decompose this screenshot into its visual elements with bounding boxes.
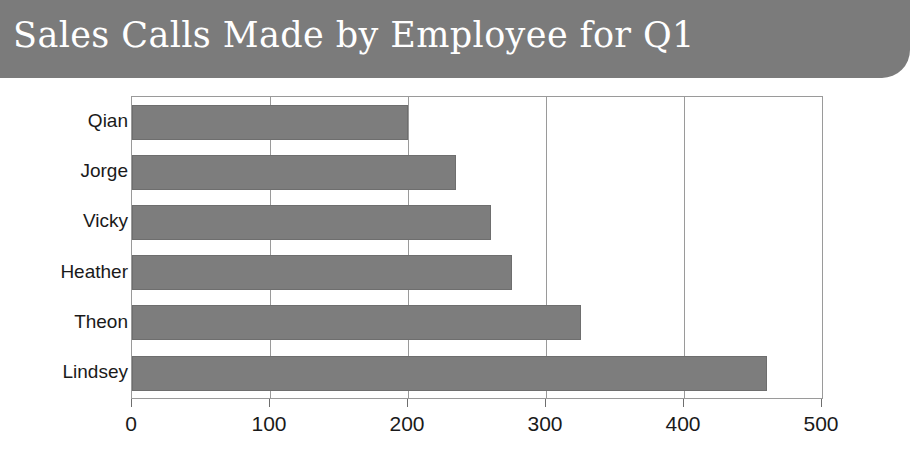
y-axis-label-lindsey: Lindsey bbox=[8, 347, 128, 397]
y-axis-label-theon: Theon bbox=[8, 297, 128, 347]
bar-row bbox=[132, 298, 822, 349]
x-tick-label-500: 500 bbox=[781, 412, 861, 436]
bar-row bbox=[132, 147, 822, 198]
page-title: Sales Calls Made by Employee for Q1 bbox=[13, 8, 695, 62]
x-tick-mark bbox=[683, 399, 684, 407]
plot-area bbox=[131, 96, 823, 399]
x-tick-label-400: 400 bbox=[643, 412, 723, 436]
x-tick-mark bbox=[821, 399, 822, 407]
title-banner: Sales Calls Made by Employee for Q1 bbox=[0, 0, 910, 78]
y-axis-category-labels: QianJorgeVickyHeatherTheonLindsey bbox=[0, 96, 128, 399]
x-tick-label-0: 0 bbox=[91, 412, 171, 436]
bar bbox=[132, 105, 408, 140]
y-axis-label-vicky: Vicky bbox=[8, 196, 128, 246]
bar bbox=[132, 305, 581, 340]
bar bbox=[132, 205, 491, 240]
bar bbox=[132, 356, 767, 391]
bar-series bbox=[132, 97, 822, 398]
x-tick-label-100: 100 bbox=[229, 412, 309, 436]
x-tick-mark bbox=[545, 399, 546, 407]
x-tick-mark bbox=[269, 399, 270, 407]
y-axis-label-heather: Heather bbox=[8, 247, 128, 297]
x-tick-mark bbox=[131, 399, 132, 407]
x-axis: 0100200300400500 bbox=[131, 399, 823, 459]
x-tick-label-300: 300 bbox=[505, 412, 585, 436]
bar bbox=[132, 255, 512, 290]
bar-chart: QianJorgeVickyHeatherTheonLindsey 010020… bbox=[0, 78, 910, 470]
bar-row bbox=[132, 97, 822, 148]
y-axis-label-jorge: Jorge bbox=[8, 146, 128, 196]
bar bbox=[132, 155, 456, 190]
x-tick-mark bbox=[407, 399, 408, 407]
bar-row bbox=[132, 348, 822, 399]
bar-row bbox=[132, 248, 822, 299]
y-axis-label-qian: Qian bbox=[8, 96, 128, 146]
x-tick-label-200: 200 bbox=[367, 412, 447, 436]
bar-row bbox=[132, 197, 822, 248]
